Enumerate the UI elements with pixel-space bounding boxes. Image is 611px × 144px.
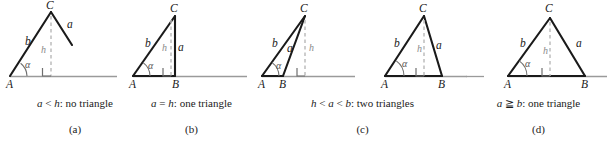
condition-token: : one triangle: [174, 97, 232, 109]
condition-token: : no triangle: [60, 97, 113, 109]
vertex-label-B: B: [279, 79, 286, 91]
vertex-label-A: A: [129, 79, 136, 91]
height-label-h: h: [162, 43, 167, 53]
side-b-segment: [133, 16, 175, 76]
vertex-label-A: A: [6, 79, 13, 91]
angle-label-alpha: α: [276, 61, 281, 71]
vertex-label-B-2: B: [438, 79, 445, 91]
side-label-a: a: [287, 43, 293, 55]
vertex-label-A-2: A: [381, 79, 388, 91]
side-label-b: b: [145, 38, 151, 50]
condition-token: : two triangles: [351, 97, 414, 109]
side-label-b: b: [272, 38, 278, 50]
side-label-a: a: [576, 38, 582, 50]
vertex-label-B: B: [581, 79, 588, 91]
vertex-label-C: C: [170, 3, 178, 15]
side-label-b: b: [25, 36, 31, 48]
figure-root: C A b a h α a < h: no triangle (a) C: [0, 0, 611, 144]
condition-token: : one triangle: [522, 97, 580, 109]
side-b-segment-left: [262, 16, 305, 76]
angle-label-alpha: α: [148, 61, 153, 71]
panel-d-drawing: [466, 0, 611, 95]
panel-d: C A B b a h α a ≧ b: one triangle (d): [466, 0, 611, 144]
angle-label-alpha: α: [25, 60, 30, 70]
right-angle-mark: [43, 68, 52, 76]
side-label-a: a: [67, 19, 73, 31]
panel-b-letter: (b): [125, 123, 258, 135]
right-angle-mark-left: [297, 68, 305, 76]
panel-b: C A B b a h α a = h: one triangle (b): [125, 0, 258, 144]
vertex-label-A: A: [504, 79, 511, 91]
side-label-b: b: [520, 38, 526, 50]
height-label-h-2: h: [417, 44, 422, 54]
panel-c-condition: h < a < b: two triangles: [255, 97, 470, 109]
right-angle-mark-right: [416, 68, 424, 76]
panel-c-letter: (c): [255, 123, 470, 135]
height-label-h: h: [309, 43, 314, 53]
vertex-label-C: C: [545, 3, 553, 15]
vertex-label-C: C: [300, 3, 308, 15]
vertex-label-B: B: [172, 79, 179, 91]
condition-token: <: [43, 97, 55, 109]
side-label-a-2: a: [436, 40, 442, 52]
angle-label-alpha: α: [525, 59, 530, 69]
panel-d-letter: (d): [466, 123, 611, 135]
panel-b-condition: a = h: one triangle: [125, 97, 258, 109]
vertex-label-C: C: [46, 0, 54, 12]
side-label-b-2: b: [394, 38, 400, 50]
panel-d-condition: a ≧ b: one triangle: [466, 97, 611, 109]
condition-token: <: [317, 97, 329, 109]
height-label-h: h: [41, 45, 46, 55]
right-angle-mark: [542, 68, 550, 76]
condition-token: ≧: [502, 97, 517, 109]
right-angle-mark: [163, 68, 171, 76]
side-label-a: a: [178, 42, 184, 54]
condition-token: <: [334, 97, 346, 109]
height-label-h: h: [543, 46, 548, 56]
condition-token: =: [157, 97, 169, 109]
panel-c: C A B b a h α C A B b a h α h < a < b: t…: [255, 0, 470, 144]
angle-label-alpha-2: α: [402, 59, 407, 69]
vertex-label-C-2: C: [419, 3, 427, 15]
vertex-label-A: A: [258, 79, 265, 91]
